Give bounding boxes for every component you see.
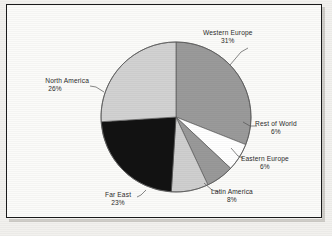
slice-label-latin-america: Latin America 8%	[211, 188, 253, 204]
slice-label-rest-of-world: Rest of World 6%	[255, 120, 297, 136]
slice-label-north-america-value: 26%	[21, 85, 89, 93]
pie-slice-far-east	[101, 117, 176, 192]
slice-label-north-america-name: North America	[21, 77, 89, 85]
slice-label-eastern-europe-name: Eastern Europe	[241, 155, 289, 163]
slice-label-latin-america-value: 8%	[211, 196, 253, 204]
slice-label-eastern-europe: Eastern Europe 6%	[241, 155, 289, 171]
slice-label-rest-of-world-value: 6%	[255, 128, 297, 136]
pie-slice-north-america	[101, 42, 176, 122]
leader-line-western-europe	[230, 48, 248, 65]
slice-label-far-east-value: 23%	[105, 199, 131, 207]
slice-label-western-europe: Western Europe 31%	[203, 29, 253, 45]
pie-slice-group	[101, 42, 251, 192]
figure-container: Western Europe 31% Rest of World 6% East…	[0, 0, 332, 236]
slice-label-latin-america-name: Latin America	[211, 188, 253, 196]
slice-label-western-europe-name: Western Europe	[203, 29, 253, 37]
pie-chart	[0, 0, 332, 236]
slice-label-north-america: North America 26%	[21, 77, 89, 93]
slice-label-far-east: Far East 23%	[105, 191, 131, 207]
slice-label-far-east-name: Far East	[105, 191, 131, 199]
slice-label-rest-of-world-name: Rest of World	[255, 120, 297, 128]
leader-line-far-east	[137, 190, 146, 197]
slice-label-eastern-europe-value: 6%	[241, 163, 289, 171]
leader-line-north-america	[90, 86, 104, 92]
slice-label-western-europe-value: 31%	[203, 37, 253, 45]
